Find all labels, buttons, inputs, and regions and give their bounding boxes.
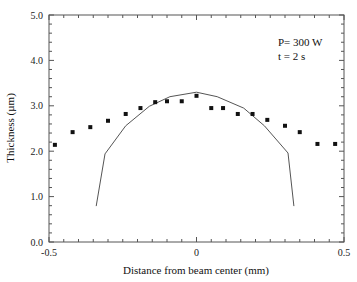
data-point-marker	[165, 99, 169, 103]
annotation-time: t = 2 s	[278, 50, 305, 62]
x-tick-label: -0.5	[41, 247, 57, 258]
data-point-marker	[88, 125, 92, 129]
data-point-marker	[333, 142, 337, 146]
data-point-marker	[153, 100, 157, 104]
calculated-line	[96, 92, 294, 206]
thickness-chart: 0.01.02.03.04.05.0-0.500.5 Distance from…	[0, 0, 357, 282]
data-point-marker	[298, 130, 302, 134]
y-tick-label: 4.0	[31, 55, 44, 66]
data-point-marker	[124, 112, 128, 116]
y-tick-label: 5.0	[31, 10, 44, 21]
y-tick-label: 2.0	[31, 146, 44, 157]
data-point-marker	[71, 130, 75, 134]
data-point-marker	[209, 106, 213, 110]
data-point-marker	[180, 99, 184, 103]
data-point-marker	[53, 143, 57, 147]
y-tick-label: 1.0	[31, 191, 44, 202]
data-point-marker	[221, 106, 225, 110]
data-point-marker	[315, 142, 319, 146]
x-tick-label: 0.5	[338, 247, 351, 258]
x-tick-label: 0	[194, 247, 199, 258]
data-point-marker	[195, 94, 199, 98]
data-point-marker	[265, 118, 269, 122]
annotation-power: P= 300 W	[278, 36, 323, 48]
data-point-marker	[106, 119, 110, 123]
x-axis-label: Distance from beam center (mm)	[123, 264, 269, 277]
measured-points	[53, 94, 337, 147]
y-axis-label: Thickness (µm)	[4, 93, 17, 163]
data-point-marker	[283, 124, 287, 128]
y-tick-label: 0.0	[31, 237, 44, 248]
data-point-marker	[251, 112, 255, 116]
calculated-curve	[96, 92, 294, 206]
y-tick-label: 3.0	[31, 100, 44, 111]
data-point-marker	[138, 106, 142, 110]
data-point-marker	[236, 112, 240, 116]
